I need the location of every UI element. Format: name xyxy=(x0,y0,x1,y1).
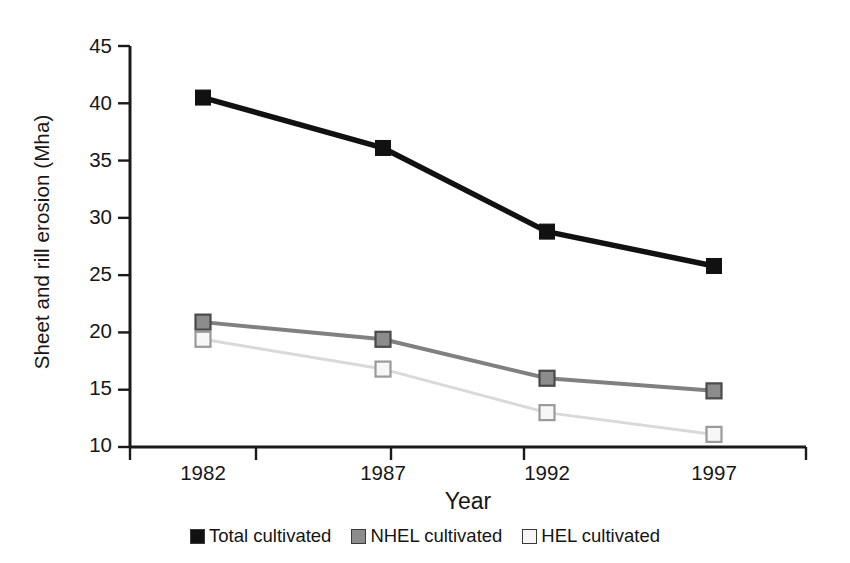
data-point-total-cultivated-1982[interactable] xyxy=(196,90,211,105)
legend-swatch-icon-hel xyxy=(522,529,537,544)
legend-label-nhel: NHEL cultivated xyxy=(370,527,502,546)
data-point-hel-cultivated-1987[interactable] xyxy=(376,362,391,377)
chart-figure: Sheet and rill erosion (Mha) 45 40 35 30… xyxy=(0,0,850,563)
data-point-nhel-cultivated-1992[interactable] xyxy=(540,371,555,386)
data-point-nhel-cultivated-1982[interactable] xyxy=(196,315,211,330)
data-point-hel-cultivated-1982[interactable] xyxy=(196,332,211,347)
legend-item-hel-cultivated[interactable]: HEL cultivated xyxy=(522,527,660,546)
data-point-nhel-cultivated-1997[interactable] xyxy=(707,383,722,398)
x-tick-marks xyxy=(130,447,806,460)
legend-swatch-icon-nhel xyxy=(351,529,366,544)
plot-area xyxy=(0,0,850,563)
data-point-nhel-cultivated-1987[interactable] xyxy=(376,332,391,347)
legend-item-total-cultivated[interactable]: Total cultivated xyxy=(190,527,331,546)
series-line-total-cultivated xyxy=(203,98,714,266)
series-line-nhel-cultivated xyxy=(203,322,714,391)
legend-swatch-icon-total xyxy=(190,529,205,544)
y-tick-marks xyxy=(118,46,130,447)
data-point-hel-cultivated-1992[interactable] xyxy=(540,405,555,420)
legend-label-total: Total cultivated xyxy=(209,527,331,546)
chart-legend: Total cultivated NHEL cultivated HEL cul… xyxy=(0,527,850,546)
legend-item-nhel-cultivated[interactable]: NHEL cultivated xyxy=(351,527,502,546)
data-point-total-cultivated-1992[interactable] xyxy=(540,224,555,239)
legend-label-hel: HEL cultivated xyxy=(541,527,660,546)
data-point-total-cultivated-1997[interactable] xyxy=(707,258,722,273)
data-point-hel-cultivated-1997[interactable] xyxy=(707,427,722,442)
series-lines xyxy=(203,98,714,435)
data-point-total-cultivated-1987[interactable] xyxy=(376,140,391,155)
